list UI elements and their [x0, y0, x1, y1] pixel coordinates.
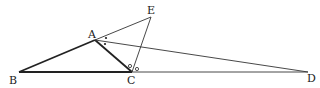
diagram-canvas: A B C D E	[0, 0, 320, 88]
segment-AE	[95, 17, 151, 40]
point-label-C: C	[127, 74, 135, 87]
angle-mark-circle-icon	[135, 67, 138, 70]
point-label-B: B	[9, 74, 17, 87]
point-label-D: D	[307, 72, 316, 85]
geometry-figure: A B C D E	[0, 0, 320, 88]
segment-BA	[19, 40, 95, 72]
point-label-A: A	[87, 28, 97, 41]
angle-mark-dot-icon	[105, 37, 107, 39]
segment-CE	[132, 17, 151, 72]
angle-mark-dot-icon	[104, 43, 106, 45]
angle-mark-circle-icon	[128, 64, 131, 67]
point-label-E: E	[147, 4, 155, 17]
